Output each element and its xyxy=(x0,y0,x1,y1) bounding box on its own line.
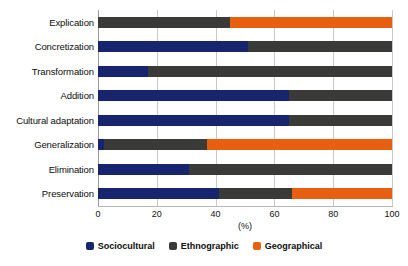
legend-swatch-icon xyxy=(253,242,261,250)
bar-segment xyxy=(98,188,219,199)
bar-segment xyxy=(98,115,289,126)
bar-segment xyxy=(289,115,392,126)
legend-swatch-icon xyxy=(86,242,94,250)
bar-segment xyxy=(292,188,392,199)
category-axis-labels: ExplicationConcretizationTransformationA… xyxy=(0,10,94,206)
bar-row xyxy=(98,139,392,150)
bar-segment xyxy=(98,41,248,52)
x-axis-tick-labels: 020406080100 xyxy=(98,208,392,222)
legend-item[interactable]: Geographical xyxy=(253,241,323,251)
x-tick-label: 0 xyxy=(95,208,100,220)
bar-segment xyxy=(230,17,392,28)
bar-segment xyxy=(248,41,392,52)
bar-row xyxy=(98,90,392,101)
bar-segment xyxy=(219,188,293,199)
x-tick-label: 100 xyxy=(384,208,399,220)
category-label: Concretization xyxy=(0,41,94,52)
category-label: Elimination xyxy=(0,164,94,175)
bar-row xyxy=(98,66,392,77)
category-label: Explication xyxy=(0,17,94,28)
category-label: Generalization xyxy=(0,139,94,150)
category-label: Addition xyxy=(0,90,94,101)
plot-area xyxy=(98,10,392,206)
legend-item[interactable]: Sociocultural xyxy=(86,241,155,251)
bar-segment xyxy=(289,90,392,101)
gridline-100 xyxy=(392,10,393,206)
category-label: Preservation xyxy=(0,188,94,199)
x-tick-label: 20 xyxy=(152,208,162,220)
bar-row xyxy=(98,17,392,28)
category-label: Cultural adaptation xyxy=(0,115,94,126)
stacked-bar-chart: ExplicationConcretizationTransformationA… xyxy=(0,0,408,266)
bar-segment xyxy=(98,90,289,101)
bar-row xyxy=(98,188,392,199)
category-label: Transformation xyxy=(0,66,94,77)
bar-segment xyxy=(148,66,392,77)
x-axis-line xyxy=(98,206,393,207)
bar-row xyxy=(98,115,392,126)
legend-label: Sociocultural xyxy=(98,241,155,251)
bar-segment xyxy=(189,164,392,175)
bar-row xyxy=(98,41,392,52)
bar-segment xyxy=(104,139,207,150)
x-tick-label: 80 xyxy=(328,208,338,220)
x-tick-label: 40 xyxy=(211,208,221,220)
x-tick-label: 60 xyxy=(269,208,279,220)
legend-item[interactable]: Ethnographic xyxy=(169,241,239,251)
legend-label: Ethnographic xyxy=(181,241,239,251)
x-axis-title: (%) xyxy=(98,221,392,231)
bar-series-container xyxy=(98,10,392,206)
legend-label: Geographical xyxy=(265,241,323,251)
bar-segment xyxy=(98,66,148,77)
bar-segment xyxy=(98,17,230,28)
bar-segment xyxy=(98,164,189,175)
chart-legend: SocioculturalEthnographicGeographical xyxy=(0,241,408,251)
bar-segment xyxy=(207,139,392,150)
bar-row xyxy=(98,164,392,175)
legend-swatch-icon xyxy=(169,242,177,250)
